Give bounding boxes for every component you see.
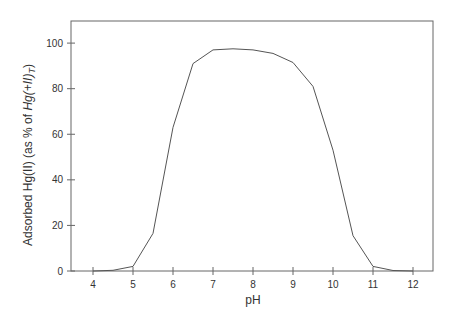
- x-tick-label: 6: [170, 279, 176, 290]
- x-tick-label: 12: [407, 279, 419, 290]
- x-tick-label: 9: [290, 279, 296, 290]
- x-tick-label: 7: [210, 279, 216, 290]
- x-axis-ticks: 456789101112: [90, 267, 419, 290]
- x-tick-label: 5: [130, 279, 136, 290]
- x-axis-label: pH: [245, 293, 260, 307]
- y-tick-label: 100: [46, 38, 63, 49]
- y-tick-label: 0: [57, 266, 63, 277]
- plot-frame: [71, 21, 433, 271]
- y-tick-label: 40: [52, 174, 64, 185]
- x-tick-label: 11: [368, 279, 379, 290]
- y-tick-label: 80: [52, 83, 64, 94]
- chart: 020406080100 456789101112 pH Adsorbed Hg…: [0, 0, 454, 330]
- y-tick-label: 60: [52, 129, 64, 140]
- data-line: [93, 49, 413, 271]
- x-tick-label: 4: [90, 279, 96, 290]
- x-tick-label: 8: [250, 279, 256, 290]
- y-tick-label: 20: [52, 220, 64, 231]
- x-tick-label: 10: [327, 279, 339, 290]
- y-axis-label: Adsorbed Hg(II) (as % of Hg(+II)T): [21, 64, 37, 246]
